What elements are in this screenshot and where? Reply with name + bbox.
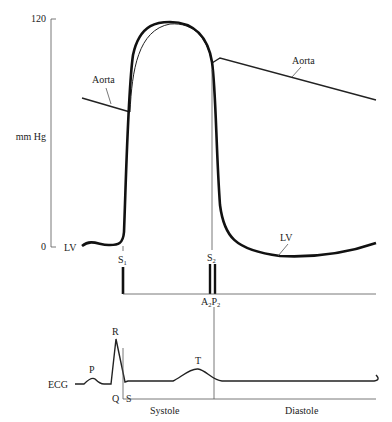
- r-wave-label: R: [112, 326, 119, 337]
- y-tick-0: 0: [41, 241, 46, 252]
- aorta-label-left: Aorta: [92, 74, 115, 85]
- aorta-curve: Aorta Aorta: [82, 24, 376, 112]
- a2p2-label: A2P2: [201, 296, 220, 308]
- aorta-label-right: Aorta: [292, 55, 315, 66]
- t-wave-label: T: [195, 355, 201, 366]
- p-wave-label: P: [89, 364, 95, 375]
- y-axis: 120 0 mm Hg: [16, 13, 56, 252]
- lv-curve: LV LV: [64, 22, 376, 256]
- cardiac-cycle-diagram: 120 0 mm Hg Aorta Aorta LV LV S1 S2 A2P2…: [0, 0, 392, 422]
- s-wave-label: S: [126, 393, 132, 404]
- phases: Systole Diastole: [123, 348, 376, 416]
- lv-label-left: LV: [64, 242, 77, 253]
- heart-sounds: S1 S2 A2P2: [118, 70, 376, 399]
- ecg-trace: ECG P Q R S T: [48, 326, 378, 404]
- s2-label: S2: [207, 252, 216, 264]
- s1-label: S1: [118, 254, 127, 266]
- q-wave-label: Q: [112, 393, 120, 404]
- diastole-label: Diastole: [285, 405, 319, 416]
- y-tick-120: 120: [31, 13, 46, 24]
- lv-label-right: LV: [280, 232, 293, 243]
- ecg-label: ECG: [48, 379, 68, 390]
- y-axis-label: mm Hg: [16, 131, 46, 142]
- systole-label: Systole: [150, 405, 180, 416]
